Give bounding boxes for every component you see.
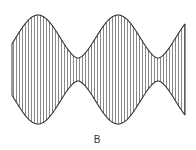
upper-envelope: [12, 15, 185, 58]
figure-label: B: [94, 134, 101, 145]
am-waveform-figure: B: [0, 0, 196, 150]
carrier-hatch-lines: [14, 0, 185, 150]
lower-envelope: [12, 81, 185, 124]
